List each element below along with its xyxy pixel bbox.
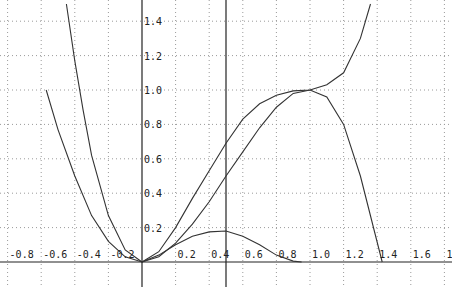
tick-labels: -0.8-0.6-0.4-0.20.20.40.60.81.01.21.41.6… bbox=[10, 16, 452, 260]
y-tick-label: 0.8 bbox=[144, 119, 162, 130]
function-plot: -0.8-0.6-0.4-0.20.20.40.60.81.01.21.41.6… bbox=[0, 0, 452, 287]
steep-left-curve bbox=[66, 4, 142, 262]
y-tick-label: 0.4 bbox=[144, 188, 162, 199]
y-tick-label: 0.2 bbox=[144, 223, 162, 234]
x-tick-label: 0.2 bbox=[178, 249, 196, 260]
y-tick-label: 1.4 bbox=[144, 16, 162, 27]
y-tick-label: 1.2 bbox=[144, 51, 162, 62]
x-tick-label: 1.0 bbox=[312, 249, 330, 260]
middle-curve bbox=[46, 90, 382, 262]
x-tick-label: 0.6 bbox=[245, 249, 263, 260]
x-tick-label: 0.8 bbox=[278, 249, 296, 260]
x-tick-label: 1.6 bbox=[413, 249, 431, 260]
x-tick-label: -0.8 bbox=[10, 249, 34, 260]
x-tick-label: 0.4 bbox=[211, 249, 229, 260]
x-tick-label: 1.4 bbox=[379, 249, 397, 260]
x-tick-label: 1 bbox=[446, 249, 452, 260]
y-tick-label: 1.0 bbox=[144, 85, 162, 96]
curves bbox=[46, 4, 382, 262]
x-tick-label: -0.4 bbox=[77, 249, 101, 260]
x-tick-label: 1.2 bbox=[346, 249, 364, 260]
x-tick-label: -0.6 bbox=[43, 249, 67, 260]
y-tick-label: 0.6 bbox=[144, 154, 162, 165]
x-tick-label: -0.2 bbox=[110, 249, 134, 260]
